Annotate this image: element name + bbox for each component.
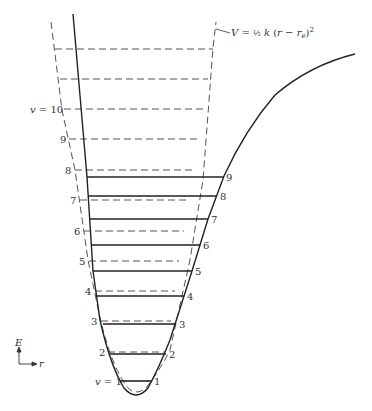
axes-indicator [17, 347, 37, 366]
svg-text:9: 9 [60, 134, 66, 145]
svg-text:7: 7 [70, 195, 76, 206]
svg-text:v = 1: v = 1 [95, 376, 122, 387]
svg-text:3: 3 [91, 316, 97, 327]
svg-text:7: 7 [211, 214, 217, 225]
morse-potential-curve [73, 14, 355, 395]
svg-text:5: 5 [79, 256, 85, 267]
energy-axis-label: E [14, 337, 23, 348]
svg-text:2: 2 [169, 349, 175, 360]
harmonic-potential-curve [51, 22, 216, 392]
svg-text:2: 2 [99, 347, 105, 358]
svg-text:5: 5 [195, 266, 201, 277]
svg-text:3: 3 [179, 319, 185, 330]
svg-text:4: 4 [85, 286, 91, 297]
formula-leader-line [216, 29, 230, 33]
svg-text:4: 4 [187, 291, 193, 302]
harmonic-levels [55, 49, 213, 352]
svg-text:v = 10: v = 10 [30, 104, 63, 115]
svg-text:8: 8 [220, 191, 226, 202]
svg-text:6: 6 [203, 240, 209, 251]
svg-text:8: 8 [65, 165, 71, 176]
r-axis-label: r [39, 358, 45, 369]
harmonic-formula-label: V = ½ k (r − re)2 [231, 26, 314, 40]
morse-potential-diagram: v = 10 9 8 7 6 5 4 3 2 v = 1 1 2 3 4 5 6… [0, 0, 372, 411]
svg-text:9: 9 [226, 172, 232, 183]
svg-text:6: 6 [74, 226, 80, 237]
svg-text:1: 1 [154, 376, 160, 387]
